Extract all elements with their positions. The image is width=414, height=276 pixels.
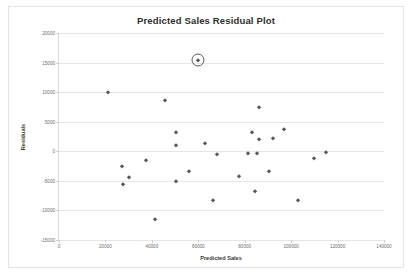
x-axis-tick-mark bbox=[198, 240, 199, 243]
y-axis-tick-label: 5000 bbox=[45, 119, 55, 124]
data-point[interactable] bbox=[144, 158, 148, 162]
x-axis-tick-mark bbox=[338, 240, 339, 243]
data-point[interactable] bbox=[203, 141, 207, 145]
x-axis-tick-label: 140000 bbox=[376, 244, 391, 249]
gridline-horizontal bbox=[59, 240, 384, 241]
data-point[interactable] bbox=[296, 199, 300, 203]
plot-area: -15000-10000-500005000100001500020000020… bbox=[58, 33, 384, 241]
x-axis-title: Predicted Sales bbox=[58, 255, 384, 261]
data-point[interactable] bbox=[237, 174, 241, 178]
y-axis-tick-label: 20000 bbox=[42, 31, 55, 36]
x-axis-tick-label: 20000 bbox=[99, 244, 112, 249]
data-point[interactable] bbox=[153, 217, 157, 221]
data-point[interactable] bbox=[253, 189, 257, 193]
data-point[interactable] bbox=[257, 138, 261, 142]
y-axis-tick-mark bbox=[56, 210, 59, 211]
chart-frame: Predicted Sales Residual Plot Residuals … bbox=[8, 6, 404, 268]
x-axis-tick-mark bbox=[59, 240, 60, 243]
data-point[interactable] bbox=[163, 98, 167, 102]
y-axis-tick-mark bbox=[56, 92, 59, 93]
data-point[interactable] bbox=[174, 179, 178, 183]
data-point[interactable] bbox=[250, 131, 254, 135]
y-axis-tick-label: 10000 bbox=[42, 90, 55, 95]
y-axis-tick-label: -5000 bbox=[43, 178, 55, 183]
x-axis-tick-label: 60000 bbox=[192, 244, 205, 249]
x-axis-tick-mark bbox=[105, 240, 106, 243]
data-point[interactable] bbox=[257, 105, 261, 109]
x-axis-tick-mark bbox=[384, 240, 385, 243]
data-point[interactable] bbox=[246, 151, 250, 155]
data-point[interactable] bbox=[127, 175, 131, 179]
y-axis-title: Residuals bbox=[20, 124, 26, 150]
data-point[interactable] bbox=[120, 164, 124, 168]
y-axis-tick-mark bbox=[56, 63, 59, 64]
data-point[interactable] bbox=[212, 199, 216, 203]
y-axis-tick-label: 15000 bbox=[42, 60, 55, 65]
gridline-horizontal bbox=[59, 63, 384, 64]
gridline-horizontal bbox=[59, 122, 384, 123]
gridline-horizontal bbox=[59, 151, 384, 152]
x-axis-tick-label: 100000 bbox=[283, 244, 298, 249]
data-point[interactable] bbox=[174, 130, 178, 134]
data-point[interactable] bbox=[187, 170, 191, 174]
data-point[interactable] bbox=[313, 157, 317, 161]
x-axis-tick-label: 120000 bbox=[330, 244, 345, 249]
data-point[interactable] bbox=[324, 150, 328, 154]
y-axis-tick-mark bbox=[56, 151, 59, 152]
y-axis-tick-mark bbox=[56, 181, 59, 182]
data-point[interactable] bbox=[215, 152, 219, 156]
data-point[interactable] bbox=[282, 127, 286, 131]
gridline-horizontal bbox=[59, 33, 384, 34]
gridline-horizontal bbox=[59, 210, 384, 211]
y-axis-tick-label: -15000 bbox=[41, 238, 55, 243]
highlight-circle-annotation[interactable] bbox=[192, 53, 205, 66]
data-point[interactable] bbox=[271, 136, 275, 140]
data-point[interactable] bbox=[121, 182, 125, 186]
x-axis-tick-mark bbox=[152, 240, 153, 243]
y-axis-tick-label: -10000 bbox=[41, 208, 55, 213]
y-axis-tick-label: 0 bbox=[52, 149, 55, 154]
gridline-horizontal bbox=[59, 181, 384, 182]
data-point[interactable] bbox=[174, 144, 178, 148]
chart-title: Predicted Sales Residual Plot bbox=[9, 15, 403, 26]
x-axis-tick-mark bbox=[245, 240, 246, 243]
x-axis-tick-label: 0 bbox=[58, 244, 61, 249]
data-point[interactable] bbox=[106, 90, 110, 94]
x-axis-tick-label: 80000 bbox=[238, 244, 251, 249]
y-axis-tick-mark bbox=[56, 122, 59, 123]
data-point[interactable] bbox=[267, 170, 271, 174]
x-axis-tick-label: 40000 bbox=[145, 244, 158, 249]
x-axis-tick-mark bbox=[291, 240, 292, 243]
y-axis-tick-mark bbox=[56, 33, 59, 34]
